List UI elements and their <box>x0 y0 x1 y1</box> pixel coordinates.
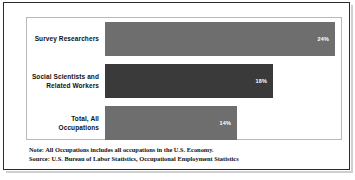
bar-row: Social Scientists and Related Workers 18… <box>27 64 341 98</box>
category-label-line1: Total, All <box>71 115 99 122</box>
bar-social-scientists: 18% <box>105 64 273 98</box>
bar-survey-researchers: 24% <box>105 22 335 56</box>
figure-shadow-bottom <box>6 171 353 173</box>
plot-area: Survey Researchers 24% Social Scientists… <box>26 17 342 140</box>
bar-value-label: 14% <box>219 120 231 126</box>
footnotes: Note: All Occupations includes all occup… <box>29 145 339 163</box>
bar-row: Survey Researchers 24% <box>27 22 341 56</box>
bar-row: Total, All Occupations 14% <box>27 106 341 140</box>
bar-value-label: 18% <box>255 78 267 84</box>
footnote-source: Source: U.S. Bureau of Labor Statistics,… <box>29 154 339 163</box>
figure-outer-frame: Survey Researchers 24% Social Scientists… <box>3 2 350 170</box>
category-label-survey-researchers: Survey Researchers <box>27 35 99 44</box>
category-label-line2: Related Workers <box>46 81 99 88</box>
category-label-total-all-occupations: Total, All Occupations <box>27 115 99 132</box>
figure-shadow-right <box>351 5 353 173</box>
bar-total-all-occupations: 14% <box>105 106 237 140</box>
plot-inner: Survey Researchers 24% Social Scientists… <box>27 18 341 139</box>
bar-value-label: 24% <box>317 36 329 42</box>
category-label-line2: Occupations <box>59 123 99 130</box>
category-label-line1: Survey Researchers <box>35 35 99 42</box>
category-label-social-scientists: Social Scientists and Related Workers <box>27 73 99 90</box>
category-label-line1: Social Scientists and <box>32 73 99 80</box>
footnote-note: Note: All Occupations includes all occup… <box>29 145 339 154</box>
chart-screenshot: Survey Researchers 24% Social Scientists… <box>0 0 355 180</box>
